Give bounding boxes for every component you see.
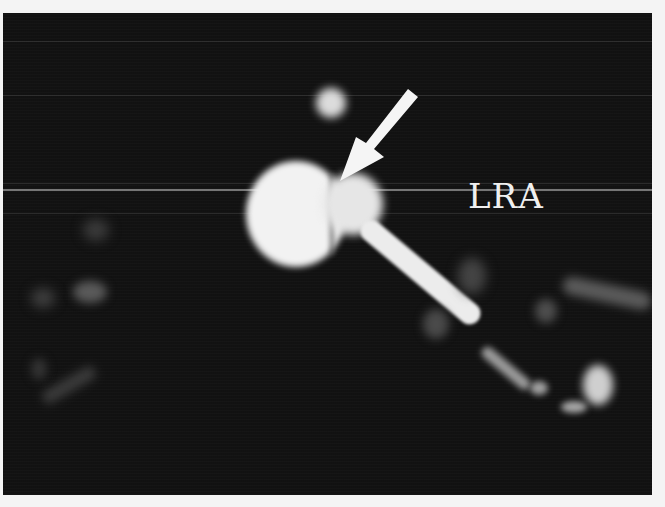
lra-label: LRA <box>468 176 544 216</box>
angiography-image: LRA <box>3 13 652 495</box>
faint-spot <box>423 309 449 339</box>
scan-artifact-line <box>3 41 652 42</box>
faint-spot <box>83 219 109 241</box>
faint-spot <box>31 358 47 380</box>
faint-spot <box>458 258 486 294</box>
faint-spot <box>73 281 107 303</box>
faint-spot <box>535 299 557 323</box>
bright-spot-lower-right <box>583 365 613 405</box>
faint-spot <box>31 288 55 308</box>
faint-spot <box>561 401 587 413</box>
faint-spot <box>530 381 548 395</box>
arrow-icon <box>338 85 428 185</box>
